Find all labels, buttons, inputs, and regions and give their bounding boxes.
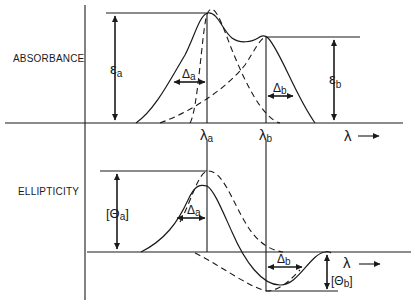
ellipticity-label: ELLIPTICITY xyxy=(18,186,79,197)
ellipticity-total-curve xyxy=(141,185,331,285)
lambda-a-label: λa xyxy=(200,126,214,144)
lambda-b-label: λb xyxy=(259,126,273,144)
absorbance-total-curve xyxy=(136,13,315,123)
lower-delta-b-label: Δb xyxy=(277,252,291,267)
absorbance-label: ABSORBANCE xyxy=(13,53,85,64)
epsilon-b-label: εb xyxy=(329,70,342,90)
delta-a-label: Δa xyxy=(182,67,196,82)
absorbance-ellipticity-diagram: ABSORBANCE εa εb Δa Δb λa λb λ ELLIPTICI… xyxy=(0,0,415,305)
absorbance-component-b xyxy=(160,37,266,123)
delta-b-label: Δb xyxy=(273,81,287,96)
lower-lambda-axis-label: λ xyxy=(343,254,351,271)
theta-a-label: [Θa] xyxy=(106,206,129,222)
epsilon-a-label: εa xyxy=(110,60,123,79)
upper-lambda-axis-label: λ xyxy=(344,127,352,144)
diagram-canvas: ABSORBANCE εa εb Δa Δb λa λb λ ELLIPTICI… xyxy=(0,0,415,305)
lower-delta-a-label: Δa xyxy=(187,203,201,218)
theta-b-label: [Θb] xyxy=(331,274,353,289)
